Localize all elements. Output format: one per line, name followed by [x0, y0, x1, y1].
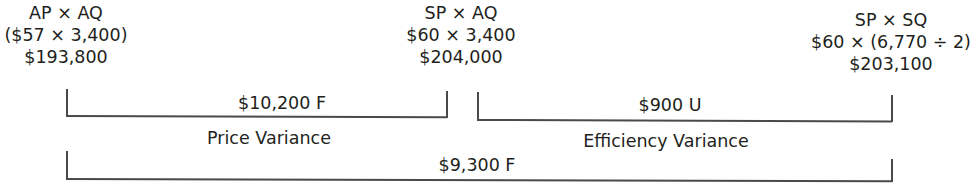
computation-sp-aq: $60 × 3,400 [406, 24, 515, 46]
total-bracket-base [66, 178, 892, 182]
formula-sp-aq: SP × AQ [406, 2, 515, 24]
result-sp-sq: $203,100 [811, 53, 971, 75]
total-variance-amount: $9,300 F [439, 154, 516, 176]
total-bracket-right-arm [891, 159, 893, 182]
result-sp-aq: $204,000 [406, 46, 515, 68]
column-standard-cost: SP × SQ $60 × (6,770 ÷ 2) $203,100 [811, 9, 971, 75]
result-ap-aq: $193,800 [5, 46, 128, 68]
column-actual-cost: AP × AQ ($57 × 3,400) $193,800 [5, 2, 128, 68]
formula-sp-sq: SP × SQ [811, 9, 971, 31]
price-bracket-base [66, 115, 447, 118]
efficiency-bracket-left-arm [477, 92, 479, 120]
efficiency-bracket-right-arm [891, 95, 893, 122]
total-bracket-left-arm [66, 151, 68, 180]
variance-diagram: AP × AQ ($57 × 3,400) $193,800 SP × AQ $… [0, 0, 977, 187]
price-variance-label: Price Variance [207, 127, 331, 149]
computation-ap-aq: ($57 × 3,400) [5, 24, 128, 46]
formula-ap-aq: AP × AQ [5, 2, 128, 24]
price-bracket-right-arm [446, 91, 448, 118]
efficiency-variance-label: Efficiency Variance [583, 130, 748, 152]
price-bracket-left-arm [66, 89, 68, 116]
price-variance-amount: $10,200 F [238, 92, 326, 114]
efficiency-variance-amount: $900 U [639, 94, 702, 116]
efficiency-bracket-base [477, 119, 892, 122]
column-standard-price-actual-qty: SP × AQ $60 × 3,400 $204,000 [406, 2, 515, 68]
computation-sp-sq: $60 × (6,770 ÷ 2) [811, 31, 971, 53]
